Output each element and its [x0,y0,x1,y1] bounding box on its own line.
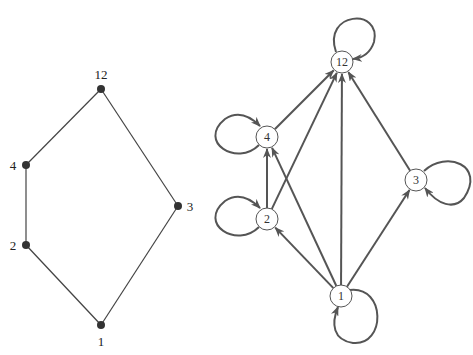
graph-node-label: 12 [336,55,348,69]
edge-1-to-2 [275,228,333,288]
hasse-node-label: 12 [95,67,108,82]
self-loop-4 [215,115,260,154]
graph-node-label: 4 [264,130,270,144]
hasse-edge [101,89,178,206]
divisibility-diagram: 124312 124312 [0,0,473,355]
hasse-edge [26,245,101,325]
hasse-node [97,321,105,329]
hasse-node-label: 4 [10,158,17,173]
edge-2-to-12 [272,73,337,209]
hasse-node-label: 2 [10,238,17,253]
graph-node-label: 3 [413,173,419,187]
hasse-node-label: 3 [187,199,194,214]
directed-graph: 124312 [215,19,470,344]
edge-1-to-3 [347,190,410,287]
edge-1-to-12 [341,74,342,285]
edge-3-to-12 [348,72,410,171]
hasse-node [174,202,182,210]
hasse-node [22,161,30,169]
hasse-node [22,241,30,249]
self-loop-3 [424,161,470,204]
edge-1-to-4 [272,148,336,286]
graph-node-label: 1 [338,289,344,303]
hasse-diagram: 124312 [10,67,194,349]
graph-node-label: 2 [264,212,270,226]
hasse-edge [26,89,101,165]
self-loop-2 [215,197,260,236]
hasse-edge [101,206,178,325]
hasse-node-label: 1 [98,334,105,349]
hasse-node [97,85,105,93]
